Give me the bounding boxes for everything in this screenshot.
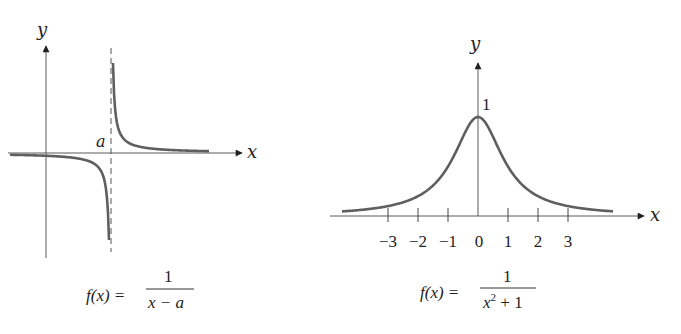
right-formula-denominator: x2 + 1 <box>482 291 523 312</box>
left-graph: y x a f(x) = 1 x − a <box>8 19 257 312</box>
tick-label: 2 <box>534 232 543 251</box>
tick-label: −3 <box>379 232 397 251</box>
peak-label: 1 <box>482 95 491 114</box>
right-y-axis-label: y <box>469 33 481 54</box>
left-x-axis-label: x <box>247 141 257 162</box>
left-formula-lhs: f(x) = <box>86 286 125 305</box>
denominator-rest: + 1 <box>496 293 523 312</box>
left-formula-denominator: x − a <box>147 293 184 312</box>
tick-label: −1 <box>439 232 457 251</box>
right-formula-lhs: f(x) = <box>420 283 459 302</box>
left-formula-numerator: 1 <box>164 267 173 286</box>
left-y-axis-label: y <box>36 19 48 40</box>
figure: y x a f(x) = 1 x − a y x 1 −3 −2 <box>0 0 681 334</box>
tick-labels: −3 −2 −1 0 1 2 3 <box>379 232 572 251</box>
diagram-canvas: y x a f(x) = 1 x − a y x 1 −3 −2 <box>0 0 681 334</box>
right-formula-numerator: 1 <box>503 267 512 286</box>
tick-label: 0 <box>475 232 484 251</box>
curve-left-branch <box>10 155 109 240</box>
tick-label: 3 <box>564 232 573 251</box>
right-graph: y x 1 −3 −2 −1 0 1 2 3 f(x) = 1 x2 + 1 <box>330 33 660 312</box>
right-x-axis-label: x <box>650 204 660 225</box>
asymptote-label: a <box>96 132 106 151</box>
tick-label: 1 <box>504 232 513 251</box>
left-formula: f(x) = 1 x − a <box>86 267 194 312</box>
right-formula: f(x) = 1 x2 + 1 <box>420 267 536 312</box>
tick-label: −2 <box>409 232 427 251</box>
curve-right-branch <box>113 63 209 151</box>
